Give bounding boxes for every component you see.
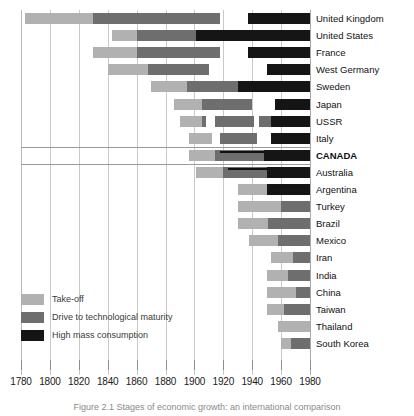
- bar-segment-mass: [264, 150, 310, 161]
- x-tick-label-1900: 1900: [184, 376, 205, 387]
- legend-swatch-drive: [21, 312, 44, 323]
- x-tick-label-1840: 1840: [97, 376, 118, 387]
- bar-segment-takeoff: [249, 235, 278, 246]
- bar-segment-drive: [291, 338, 310, 349]
- country-label-iran: Iran: [316, 252, 332, 263]
- bar-segment-drive: [281, 201, 310, 212]
- chart-row: [21, 147, 310, 164]
- country-label-china: China: [316, 287, 341, 298]
- bar-segment-mass: [271, 116, 310, 127]
- chart-row: [21, 181, 310, 198]
- bar-segment-drive: [296, 287, 310, 298]
- bar-segment-takeoff: [174, 99, 201, 110]
- legend-swatch-mass: [21, 330, 44, 341]
- chart-row: [21, 130, 310, 147]
- legend-label-mass: High mass consumption: [52, 330, 148, 341]
- legend-swatch-takeoff: [21, 294, 44, 305]
- bar-segment-takeoff: [112, 30, 137, 41]
- chart-row: [21, 249, 310, 266]
- bar-segment-takeoff: [238, 201, 281, 212]
- bar-segment-takeoff: [189, 150, 215, 161]
- x-tick-label-1960: 1960: [270, 376, 291, 387]
- chart-row: [21, 78, 310, 95]
- x-tick-label-1780: 1780: [10, 376, 31, 387]
- chart-row: [21, 215, 310, 232]
- country-label-japan: Japan: [316, 99, 342, 110]
- bar-segment-mass: [248, 13, 310, 24]
- legend-label-takeoff: Take-off: [52, 294, 84, 305]
- country-label-australia: Australia: [316, 167, 353, 178]
- bar-segment-takeoff: [238, 184, 267, 195]
- country-label-sweden: Sweden: [316, 81, 350, 92]
- bar-overline: [270, 186, 308, 188]
- stages-of-growth-chart: 1780180018201840186018801900192019401960…: [0, 0, 414, 416]
- bar-segment-takeoff: [93, 47, 136, 58]
- legend-label-drive: Drive to technological maturity: [52, 312, 173, 323]
- x-tick-label-1940: 1940: [241, 376, 262, 387]
- bar-segment-drive: [202, 99, 253, 110]
- chart-row: [21, 113, 310, 130]
- bar-segment-mass: [271, 133, 310, 144]
- bar-segment-takeoff: [196, 167, 223, 178]
- country-label-brazil: Brazil: [316, 218, 340, 229]
- bar-overline: [220, 151, 263, 153]
- bar-segment-drive: [288, 270, 310, 281]
- bar-segment-takeoff: [151, 81, 187, 92]
- bar-segment-drive: [202, 116, 206, 127]
- bar-segment-drive: [220, 133, 256, 144]
- bar-segment-drive: [215, 116, 254, 127]
- x-axis-labels: 1780180018201840186018801900192019401960…: [0, 376, 414, 392]
- x-tick-1820: [79, 360, 80, 370]
- country-label-west-germany: West Germany: [316, 64, 379, 75]
- bar-segment-drive: [284, 304, 310, 315]
- bar-segment-takeoff: [271, 252, 293, 263]
- bar-segment-mass: [275, 99, 310, 110]
- bar-segment-mass: [238, 81, 310, 92]
- x-tick-1800: [50, 360, 51, 370]
- bar-segment-drive: [293, 252, 310, 263]
- country-label-canada: CANADA: [316, 150, 357, 161]
- x-tick-label-1920: 1920: [213, 376, 234, 387]
- bar-segment-takeoff: [108, 64, 148, 75]
- label-column-divider: [310, 10, 311, 375]
- bar-segment-takeoff: [281, 338, 291, 349]
- country-label-mexico: Mexico: [316, 235, 346, 246]
- x-tick-label-1880: 1880: [155, 376, 176, 387]
- chart-row: [21, 44, 310, 61]
- chart-row: [21, 198, 310, 215]
- country-label-united-kingdom: United Kingdom: [316, 13, 384, 24]
- highlight-rule-top: [21, 147, 310, 148]
- country-label-taiwan: Taiwan: [316, 304, 346, 315]
- bar-segment-takeoff: [189, 133, 212, 144]
- x-tick-1840: [108, 360, 109, 370]
- bar-segment-drive: [148, 64, 209, 75]
- x-tick-1880: [166, 360, 167, 370]
- chart-row: [21, 267, 310, 284]
- x-tick-1940: [252, 360, 253, 370]
- chart-row: [21, 96, 310, 113]
- bar-segment-mass: [196, 30, 310, 41]
- x-tick-label-1860: 1860: [126, 376, 147, 387]
- country-label-ussr: USSR: [316, 116, 342, 127]
- x-tick-1900: [194, 360, 195, 370]
- x-tick-1960: [281, 360, 282, 370]
- x-tick-1980: [310, 360, 311, 370]
- x-tick-label-1800: 1800: [39, 376, 60, 387]
- x-tick-1860: [137, 360, 138, 370]
- bar-segment-takeoff: [238, 218, 268, 229]
- bar-segment-drive: [259, 116, 271, 127]
- bar-segment-takeoff: [267, 270, 289, 281]
- chart-row: [21, 232, 310, 249]
- bar-overline: [228, 168, 267, 170]
- bar-segment-takeoff: [180, 116, 202, 127]
- country-label-united-states: United States: [316, 30, 373, 41]
- country-label-italy: Italy: [316, 133, 333, 144]
- bar-segment-drive: [278, 235, 310, 246]
- chart-row: [21, 61, 310, 78]
- x-tick-1780: [21, 360, 22, 370]
- chart-row: [21, 27, 310, 44]
- country-label-argentina: Argentina: [316, 184, 357, 195]
- bar-segment-takeoff: [25, 13, 93, 24]
- bar-segment-drive: [187, 81, 238, 92]
- x-tick-1920: [223, 360, 224, 370]
